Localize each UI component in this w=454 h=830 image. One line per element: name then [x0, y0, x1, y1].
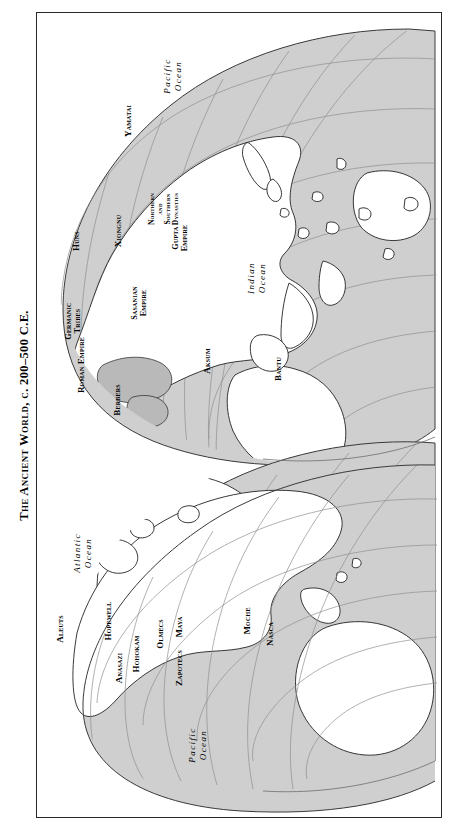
world-map-graphic [37, 13, 441, 817]
title-column: The Ancient World, c. 200–500 C.E. [12, 12, 37, 818]
page-title: The Ancient World, c. 200–500 C.E. [17, 310, 32, 521]
map-plate: Yamatai Xiongnu Northern and Southern Dy… [37, 13, 441, 817]
eastern-hemisphere [61, 29, 437, 485]
western-hemisphere [73, 465, 437, 812]
map-page: The Ancient World, c. 200–500 C.E. [0, 0, 454, 830]
